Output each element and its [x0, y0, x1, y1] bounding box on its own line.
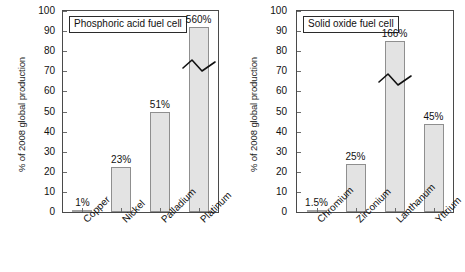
bar-slot: 560%: [179, 11, 218, 212]
bar-value-label: 1%: [75, 197, 89, 208]
y-tick-mark: [297, 132, 301, 133]
x-label-copper: Copper: [81, 217, 89, 225]
bar-value-label: 45%: [423, 111, 443, 122]
y-tick-mark: [297, 152, 301, 153]
bar-platinum: [189, 27, 209, 212]
y-axis-tick-labels: 0102030405060708090100: [28, 10, 58, 213]
y-tick-label: 70: [276, 66, 287, 76]
x-tick-mark: [199, 208, 200, 212]
bar-slot: 45%: [414, 11, 453, 212]
y-tick-mark: [297, 91, 301, 92]
y-tick-mark: [297, 172, 301, 173]
y-tick-label: 90: [44, 26, 55, 36]
x-tick-mark: [395, 208, 396, 212]
y-tick-label: 30: [44, 147, 55, 157]
y-tick-mark: [63, 132, 67, 133]
x-tick-mark: [317, 208, 318, 212]
y-tick-label: 40: [44, 127, 55, 137]
x-tick-mark: [82, 208, 83, 212]
bar-value-label: 166%: [382, 28, 408, 39]
bar-series: 1%23%51%560%: [63, 11, 218, 212]
y-tick-mark: [297, 31, 301, 32]
x-axis-category-labels: ChromiumZirconiumLanthanumYttrium: [296, 213, 454, 272]
bar-slot: 1.5%: [297, 11, 336, 212]
x-tick-mark: [121, 208, 122, 212]
y-tick-label: 0: [281, 207, 287, 217]
bar-slot: 23%: [102, 11, 141, 212]
x-axis-category-labels: CopperNickelPalladiumPlatinum: [62, 213, 219, 272]
y-axis-tick-labels: 0102030405060708090100: [260, 10, 290, 213]
y-tick-mark: [297, 51, 301, 52]
y-tick-label: 20: [44, 167, 55, 177]
plot-area: Phosphoric acid fuel cell 1%23%51%560%: [62, 10, 219, 213]
y-tick-label: 50: [276, 107, 287, 117]
figure: % of 2008 global production 010203040506…: [0, 0, 465, 272]
x-tick-mark: [356, 208, 357, 212]
chart-panel-solid-oxide-fuel-cell: % of 2008 global production 010203040506…: [232, 0, 465, 272]
y-tick-label: 0: [49, 207, 55, 217]
y-tick-label: 90: [276, 26, 287, 36]
chart-panel-phosphoric-acid-fuel-cell: % of 2008 global production 010203040506…: [0, 0, 232, 272]
y-tick-mark: [63, 152, 67, 153]
y-tick-label: 30: [276, 147, 287, 157]
x-label-lanthanum: Lanthanum: [394, 217, 402, 225]
y-tick-label: 10: [276, 187, 287, 197]
x-label-palladium: Palladium: [159, 217, 167, 225]
y-tick-label: 20: [276, 167, 287, 177]
y-tick-label: 100: [270, 6, 287, 16]
y-tick-mark: [297, 112, 301, 113]
x-label-nickel: Nickel: [120, 217, 128, 225]
y-tick-label: 100: [38, 6, 55, 16]
x-label-yttrium: Yttrium: [433, 217, 441, 225]
bar-slot: 166%: [375, 11, 414, 212]
bar-nickel: [111, 167, 131, 212]
bar-value-label: 560%: [186, 14, 212, 25]
y-tick-mark: [63, 51, 67, 52]
y-tick-mark: [297, 11, 301, 12]
y-tick-mark: [63, 192, 67, 193]
bar-palladium: [150, 112, 170, 213]
y-tick-mark: [63, 71, 67, 72]
y-tick-label: 80: [44, 46, 55, 56]
y-tick-mark: [63, 172, 67, 173]
y-tick-label: 10: [44, 187, 55, 197]
x-label-platinum: Platinum: [198, 217, 206, 225]
y-tick-label: 70: [44, 66, 55, 76]
x-tick-mark: [434, 208, 435, 212]
bar-slot: 1%: [63, 11, 102, 212]
x-label-zirconium: Zirconium: [354, 217, 362, 225]
bar-value-label: 23%: [111, 154, 131, 165]
y-tick-label: 50: [44, 107, 55, 117]
y-tick-label: 60: [44, 86, 55, 96]
bar-value-label: 25%: [345, 151, 365, 162]
bar-value-label: 51%: [150, 99, 170, 110]
y-tick-label: 40: [276, 127, 287, 137]
bar-slot: 25%: [336, 11, 375, 212]
y-tick-mark: [63, 11, 67, 12]
bar-slot: 51%: [141, 11, 180, 212]
y-tick-label: 80: [276, 46, 287, 56]
y-tick-mark: [297, 192, 301, 193]
y-tick-mark: [297, 71, 301, 72]
y-tick-label: 60: [276, 86, 287, 96]
y-tick-mark: [63, 112, 67, 113]
x-label-chromium: Chromium: [315, 217, 323, 225]
bar-lanthanum: [385, 41, 405, 212]
y-tick-mark: [63, 91, 67, 92]
x-tick-mark: [160, 208, 161, 212]
y-tick-mark: [63, 31, 67, 32]
